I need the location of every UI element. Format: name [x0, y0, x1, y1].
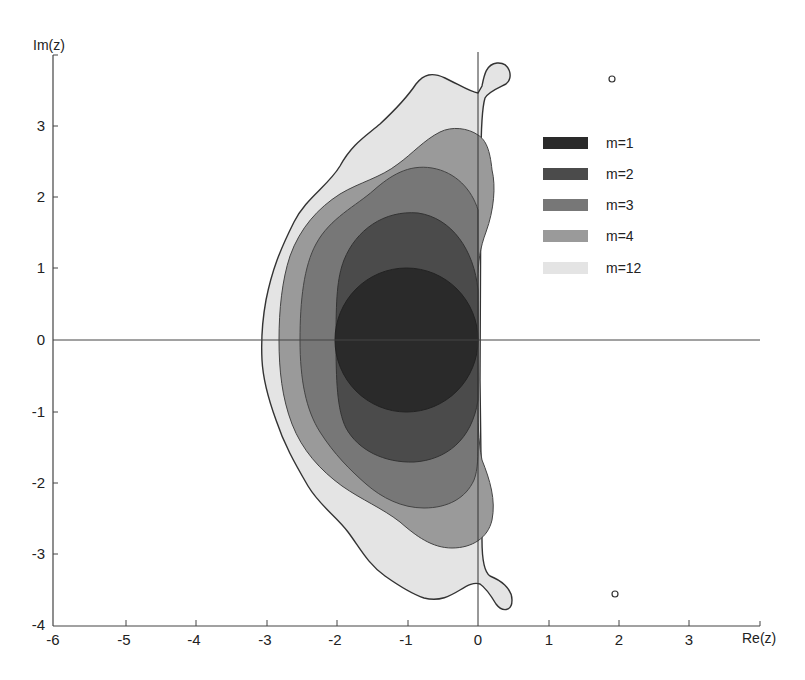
- legend-item-m3: m=3: [543, 197, 634, 213]
- legend-swatch: [543, 262, 588, 274]
- stability-region-chart: 3 2 1 0 -1 -2 -3 -4 -6 -5 -4 -3 -2 -1 0 …: [0, 0, 805, 680]
- y-axis-label: Im(z): [33, 37, 65, 53]
- x-tick-label: -5: [117, 631, 130, 648]
- legend-item-m12: m=12: [543, 260, 642, 276]
- y-tick-label: 2: [37, 188, 45, 205]
- x-axis-label: Re(z): [742, 630, 776, 646]
- y-tick-label: -1: [32, 403, 45, 420]
- x-tick-label: -6: [46, 631, 59, 648]
- legend-label: m=3: [606, 197, 634, 213]
- legend-swatch: [543, 168, 588, 180]
- x-tick-label: 2: [615, 631, 623, 648]
- y-tick-labels: 3 2 1 0 -1 -2 -3 -4: [32, 117, 45, 633]
- y-tick-label: -2: [32, 474, 45, 491]
- x-tick-label: 0: [474, 631, 482, 648]
- x-tick-labels: -6 -5 -4 -3 -2 -1 0 1 2 3: [46, 631, 693, 648]
- y-tick-label: 3: [37, 117, 45, 134]
- legend: m=1 m=2 m=3 m=4 m=12: [543, 135, 642, 276]
- x-tick-label: 3: [685, 631, 693, 648]
- legend-swatch: [543, 199, 588, 211]
- legend-label: m=2: [606, 166, 634, 182]
- y-tick-label: 1: [37, 259, 45, 276]
- x-tick-label: -3: [258, 631, 271, 648]
- legend-swatch: [543, 230, 588, 242]
- legend-swatch: [543, 137, 588, 149]
- y-tick-label: 0: [37, 331, 45, 348]
- legend-label: m=1: [606, 135, 634, 151]
- y-tick-label: -3: [32, 545, 45, 562]
- x-ticks: [126, 620, 689, 626]
- marker-circle-lower: [612, 591, 618, 597]
- legend-item-m2: m=2: [543, 166, 634, 182]
- x-tick-label: -4: [187, 631, 200, 648]
- x-tick-label: -1: [399, 631, 412, 648]
- legend-item-m4: m=4: [543, 228, 634, 244]
- y-tick-label: -4: [32, 616, 45, 633]
- marker-circle-upper: [609, 76, 615, 82]
- x-tick-label: 1: [545, 631, 553, 648]
- legend-item-m1: m=1: [543, 135, 634, 151]
- legend-label: m=12: [606, 260, 642, 276]
- legend-label: m=4: [606, 228, 634, 244]
- x-tick-label: -2: [328, 631, 341, 648]
